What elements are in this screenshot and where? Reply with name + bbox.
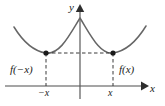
even-function-figure: y x −x x f(−x) f(x) xyxy=(0,0,165,106)
y-axis-arrowhead xyxy=(76,4,84,12)
x-axis-arrowhead xyxy=(141,82,149,91)
function-value-label-positive-x: f(x) xyxy=(119,64,134,75)
function-value-label-negative-x: f(−x) xyxy=(10,64,33,75)
data-point-positive-x xyxy=(110,50,115,55)
y-axis-label: y xyxy=(69,2,74,13)
tick-label-negative-x: −x xyxy=(38,88,49,98)
tick-label-positive-x: x xyxy=(108,88,112,98)
data-point-negative-x xyxy=(43,50,48,55)
x-axis-label: x xyxy=(150,83,155,94)
graph-canvas xyxy=(0,0,165,106)
